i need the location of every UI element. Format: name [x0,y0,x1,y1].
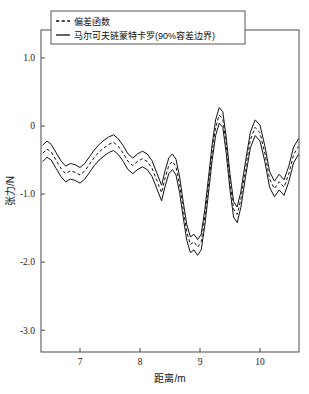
y-axis-title: 张力/N [4,176,16,206]
curve-0 [43,115,299,247]
x-axis-ticks: 78910 [78,348,265,367]
plot-frame [41,30,299,352]
chart-svg: 1.00-1.0-2.0-3.0 78910 距离/m 张力/N 偏差函数 马尔… [0,0,309,394]
curve-1 [43,108,299,240]
y-tick-label: 1.0 [23,53,35,63]
x-tick-label: 7 [78,357,83,367]
x-axis-title: 距离/m [154,372,185,384]
legend-label-0: 偏差函数 [74,16,110,27]
legend-label-1: 马尔可夫链蒙特卡罗(90%容差边界) [74,30,215,41]
data-curves [43,108,299,256]
x-tick-label: 8 [138,357,143,367]
y-tick-label: -2.0 [20,257,35,267]
x-tick-label: 9 [198,357,203,367]
chart-legend: 偏差函数 马尔可夫链蒙特卡罗(90%容差边界) [51,11,245,44]
chart-figure: 1.00-1.0-2.0-3.0 78910 距离/m 张力/N 偏差函数 马尔… [0,0,309,394]
y-tick-label: -3.0 [20,326,35,336]
y-tick-label: -1.0 [20,189,35,199]
x-tick-label: 10 [255,357,265,367]
y-tick-label: 0 [30,121,35,131]
curve-2 [43,123,299,255]
